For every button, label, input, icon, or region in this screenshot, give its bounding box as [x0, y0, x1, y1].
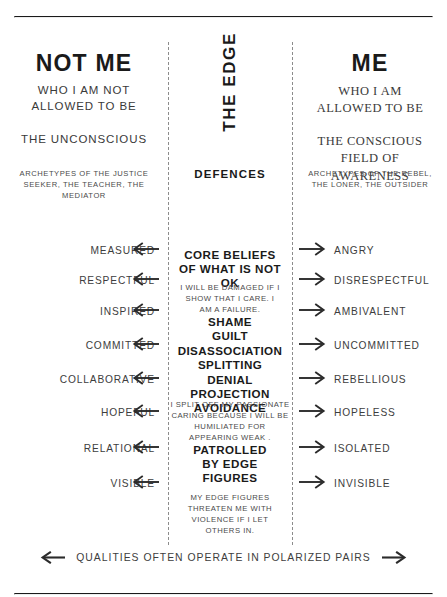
- right-archetypes: ARCHETYPES OF THE REBEL,THE LONER, THE O…: [296, 168, 444, 190]
- bottom-rule: [14, 593, 433, 595]
- left-subtitle: WHO I AM NOTALLOWED TO BE: [8, 83, 160, 115]
- edge-figures-statement: MY EDGE FIGURESTHREATEN ME WITHVIOLENCE …: [170, 492, 290, 537]
- arrow-left-icon: [130, 440, 160, 458]
- arrow-right-icon: [298, 337, 328, 355]
- right-title: ME: [296, 52, 444, 75]
- right-subtitle: WHO I AMALLOWED TO BE: [296, 83, 444, 118]
- me-quality-label: AMBIVALENT: [334, 303, 447, 321]
- quality-pair-row: MEASUREDANGRY: [0, 242, 447, 260]
- quality-pair-row: INSPIREDAMBIVALENT: [0, 303, 447, 321]
- arrow-left-icon: [130, 337, 160, 355]
- arrow-right-icon: [298, 272, 328, 290]
- arrow-right-icon: [298, 371, 328, 389]
- arrow-right-icon: [298, 440, 328, 458]
- defences-label: DEFENCES: [168, 168, 292, 180]
- me-quality-label: ANGRY: [334, 242, 447, 260]
- right-column-header: ME WHO I AMALLOWED TO BE THE CONSCIOUSFI…: [296, 52, 444, 185]
- arrow-left-icon: [130, 272, 160, 290]
- the-edge-title: THE EDGE: [168, 38, 292, 126]
- arrow-left-icon: [130, 475, 160, 493]
- left-column-header: NOT ME WHO I AM NOTALLOWED TO BE THE UNC…: [8, 52, 160, 147]
- left-field-label: THE UNCONSCIOUS: [8, 131, 160, 147]
- the-edge-title-text: THE EDGE: [220, 32, 240, 132]
- arrow-right-icon: [381, 551, 407, 564]
- arrow-right-icon: [298, 242, 328, 260]
- divider-dashed-right: [292, 42, 293, 545]
- quality-pair-row: HOPEFULHOPELESS: [0, 404, 447, 422]
- arrow-left-icon: [130, 303, 160, 321]
- footer-text: QUALITIES OFTEN OPERATE IN POLARIZED PAI…: [76, 552, 371, 563]
- left-archetypes: ARCHETYPES OF THE JUSTICESEEKER, THE TEA…: [8, 168, 160, 201]
- arrow-right-icon: [298, 475, 328, 493]
- arrow-left-icon: [130, 242, 160, 260]
- me-quality-label: REBELLIOUS: [334, 371, 447, 389]
- arrow-right-icon: [298, 303, 328, 321]
- arrow-left-icon: [40, 551, 66, 564]
- arrow-left-icon: [130, 404, 160, 422]
- quality-pair-row: VISIBLEINVISIBLE: [0, 475, 447, 493]
- quality-pair-row: COLLABORATIVEREBELLIOUS: [0, 371, 447, 389]
- arrow-left-icon: [130, 371, 160, 389]
- top-rule: [14, 16, 433, 18]
- quality-pair-row: COMMITTEDUNCOMMITTED: [0, 337, 447, 355]
- quality-pair-row: RESPECTFULDISRESPECTFUL: [0, 272, 447, 290]
- diagram-sheet: NOT ME WHO I AM NOTALLOWED TO BE THE UNC…: [0, 0, 447, 597]
- me-quality-label: ISOLATED: [334, 440, 447, 458]
- me-quality-label: HOPELESS: [334, 404, 447, 422]
- quality-pair-row: RELATIONALISOLATED: [0, 440, 447, 458]
- me-quality-label: DISRESPECTFUL: [334, 272, 447, 290]
- left-title: NOT ME: [8, 52, 160, 75]
- footer-note: QUALITIES OFTEN OPERATE IN POLARIZED PAI…: [0, 551, 447, 564]
- me-quality-label: UNCOMMITTED: [334, 337, 447, 355]
- arrow-right-icon: [298, 404, 328, 422]
- me-quality-label: INVISIBLE: [334, 475, 447, 493]
